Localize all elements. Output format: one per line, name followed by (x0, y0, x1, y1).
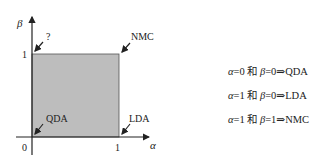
x-tick-label: 1 (115, 142, 120, 153)
arrow-top-left (35, 42, 43, 51)
label-lda: LDA (129, 113, 150, 124)
alpha-value: =0 (234, 66, 245, 77)
implies-symbol: ⇒ (276, 114, 285, 125)
x-axis-label: α (150, 139, 156, 151)
label-nmc: NMC (131, 31, 154, 42)
arrow-bottom-right (122, 124, 130, 134)
conjunction: 和 (245, 66, 260, 77)
beta-value: =0 (265, 66, 276, 77)
result: QDA (285, 66, 308, 77)
conjunction: 和 (245, 114, 260, 125)
shaded-region (32, 54, 119, 137)
y-axis-label: β (16, 17, 23, 29)
y-tick-label: 1 (22, 49, 27, 60)
origin-label: 0 (22, 142, 27, 153)
label-qda: QDA (46, 113, 68, 124)
label-question: ? (46, 31, 51, 42)
beta-value: =1 (265, 114, 276, 125)
result: NMC (285, 114, 309, 125)
arrow-top-right (122, 43, 130, 52)
alpha-value: =1 (234, 90, 245, 101)
result: LDA (285, 90, 307, 101)
equation-lda: α=1 和 β=0⇒LDA (228, 87, 307, 102)
implies-symbol: ⇒ (276, 90, 285, 101)
beta-value: =0 (265, 90, 276, 101)
equation-qda: α=0 和 β=0⇒QDA (228, 63, 308, 78)
alpha-value: =1 (234, 114, 245, 125)
equation-nmc: α=1 和 β=1⇒NMC (228, 111, 309, 126)
implies-symbol: ⇒ (276, 66, 285, 77)
conjunction: 和 (245, 90, 260, 101)
alpha-beta-diagram: β α 1 0 1 ? NMC QDA LDA (0, 0, 170, 165)
